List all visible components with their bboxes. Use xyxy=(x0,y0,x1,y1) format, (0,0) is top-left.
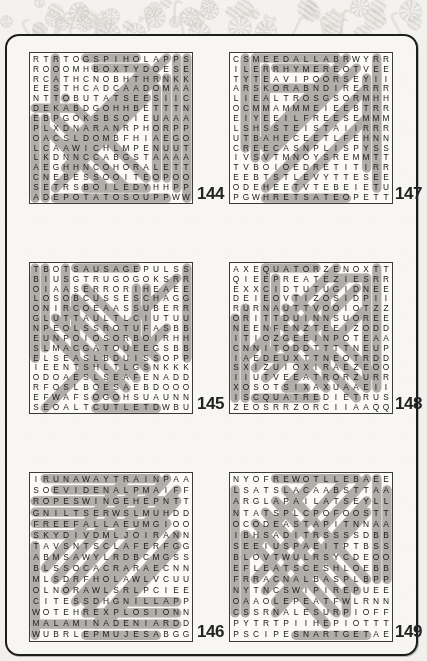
grid-cell: S xyxy=(101,373,111,383)
grid-cell: R xyxy=(61,303,71,313)
grid-cell: E xyxy=(311,64,321,74)
grid-cell: N xyxy=(311,84,321,94)
grid-cell: B xyxy=(361,574,371,585)
grid-cell: D xyxy=(301,163,311,173)
grid-cell: T xyxy=(251,618,261,629)
grid-cell: U xyxy=(161,392,171,402)
grid-cell: E xyxy=(281,192,291,202)
grid-cell: P xyxy=(141,264,151,274)
grid-cell: I xyxy=(291,382,301,392)
grid-cell: G xyxy=(51,163,61,173)
grid-cell: L xyxy=(91,518,101,529)
grid-cell: H xyxy=(61,163,71,173)
grid-cell: G xyxy=(121,264,131,274)
puzzle-number-144: 144 xyxy=(197,184,224,204)
grid-cell: N xyxy=(231,507,241,518)
grid-cell: E xyxy=(41,84,51,94)
grid-cell: R xyxy=(321,629,331,640)
grid-cell: W xyxy=(341,596,351,607)
grid-cell: N xyxy=(351,343,361,353)
grid-cell: B xyxy=(351,103,361,113)
grid-cell: T xyxy=(101,343,111,353)
grid-cell: T xyxy=(311,343,321,353)
puzzle-grid-frame: TBOTSAUSAGEPULSSBIUSGTRUGOGOKSRROIAASERR… xyxy=(29,262,193,414)
grid-cell: L xyxy=(331,133,341,143)
grid-cell: S xyxy=(81,353,91,363)
grid-cell: D xyxy=(61,123,71,133)
grid-cell: E xyxy=(231,113,241,123)
grid-cell: T xyxy=(291,284,301,294)
grid-cell: N xyxy=(361,518,371,529)
grid-cell: P xyxy=(281,618,291,629)
grid-cell: O xyxy=(31,303,41,313)
grid-cell: T xyxy=(331,629,341,640)
grid-cell: F xyxy=(131,540,141,551)
grid-cell: S xyxy=(131,392,141,402)
grid-cell: U xyxy=(381,182,391,192)
grid-cell: I xyxy=(161,93,171,103)
grid-cell: R xyxy=(41,518,51,529)
grid-cell: A xyxy=(291,485,301,496)
grid-cell: I xyxy=(291,529,301,540)
grid-cell: R xyxy=(311,529,321,540)
grid-cell: D xyxy=(361,529,371,540)
grid-cell: D xyxy=(371,323,381,333)
grid-cell: T xyxy=(171,103,181,113)
grid-cell: N xyxy=(231,323,241,333)
grid-cell: M xyxy=(281,103,291,113)
grid-cell: C xyxy=(101,540,111,551)
grid-cell: E xyxy=(351,113,361,123)
grid-cell: O xyxy=(61,323,71,333)
grid-cell: E xyxy=(131,343,141,353)
grid-cell: B xyxy=(31,563,41,574)
grid-cell: Y xyxy=(241,618,251,629)
grid-cell: X xyxy=(301,382,311,392)
grid-cell: A xyxy=(151,618,161,629)
grid-cell: T xyxy=(311,373,321,383)
grid-cell: O xyxy=(341,507,351,518)
grid-cell: R xyxy=(241,574,251,585)
grid-cell: I xyxy=(351,182,361,192)
grid-cell: T xyxy=(31,264,41,274)
grid-cell: Y xyxy=(141,182,151,192)
grid-cell: A xyxy=(371,518,381,529)
grid-cell: N xyxy=(161,496,171,507)
grid-cell: L xyxy=(101,518,111,529)
grid-cell: N xyxy=(261,585,271,596)
grid-cell: D xyxy=(281,54,291,64)
grid-cell: P xyxy=(231,629,241,640)
grid-cell: R xyxy=(151,74,161,84)
grid-cell: S xyxy=(341,485,351,496)
grid-cell: H xyxy=(121,392,131,402)
grid-cell: S xyxy=(371,143,381,153)
grid-cell: A xyxy=(291,574,301,585)
grid-cell: W xyxy=(31,629,41,640)
grid-cell: A xyxy=(301,274,311,284)
word-search-puzzle-146: IRUNAWAYTRAINPAASOEVIDENALPMAIFFROPESWIN… xyxy=(29,472,193,642)
grid-cell: L xyxy=(141,574,151,585)
grid-cell: N xyxy=(321,333,331,343)
grid-cell: S xyxy=(81,392,91,402)
grid-cell: E xyxy=(381,629,391,640)
puzzle-letter-grid: CSMEEDALLABRWYRRILERRHYMEREOTVEETYTEAVIP… xyxy=(231,54,391,202)
grid-cell: P xyxy=(341,540,351,551)
grid-cell: S xyxy=(61,551,71,562)
grid-cell: E xyxy=(41,363,51,373)
grid-cell: E xyxy=(41,182,51,192)
grid-cell: L xyxy=(271,596,281,607)
grid-cell: T xyxy=(281,172,291,182)
grid-cell: T xyxy=(381,618,391,629)
grid-cell: E xyxy=(301,596,311,607)
grid-cell: H xyxy=(261,182,271,192)
grid-cell: M xyxy=(291,103,301,113)
grid-cell: R xyxy=(361,392,371,402)
grid-cell: S xyxy=(141,629,151,640)
grid-cell: R xyxy=(311,113,321,123)
grid-cell: O xyxy=(131,529,141,540)
grid-cell: E xyxy=(141,343,151,353)
grid-cell: O xyxy=(121,163,131,173)
grid-cell: T xyxy=(71,507,81,518)
grid-cell: D xyxy=(31,103,41,113)
grid-cell: R xyxy=(161,333,171,343)
grid-cell: O xyxy=(121,274,131,284)
